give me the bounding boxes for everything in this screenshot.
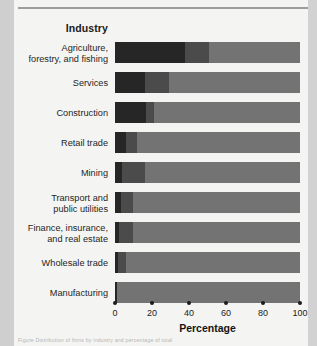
chart-row: Mining xyxy=(0,158,317,188)
bar-segment xyxy=(126,252,300,273)
chart-row: Wholesale trade xyxy=(0,248,317,278)
stacked-bar-chart: Industry Agriculture,forestry, and fishi… xyxy=(0,0,317,346)
bar-segment xyxy=(119,222,134,243)
stacked-bar xyxy=(115,102,300,123)
category-label: Transport andpublic utilities xyxy=(6,193,108,214)
x-tick-label: 60 xyxy=(221,308,231,318)
x-tick-label: 20 xyxy=(147,308,157,318)
x-tick-label: 40 xyxy=(184,308,194,318)
category-label: Mining xyxy=(6,168,108,179)
chart-row: Retail trade xyxy=(0,128,317,158)
bar-segment xyxy=(146,102,153,123)
bar-segment xyxy=(126,132,137,153)
bar-segment xyxy=(115,72,145,93)
category-label: Services xyxy=(6,78,108,89)
chart-row: Construction xyxy=(0,98,317,128)
stacked-bar xyxy=(115,132,300,153)
x-tick-mark xyxy=(150,301,154,305)
category-label: Manufacturing xyxy=(6,288,108,299)
x-tick-mark xyxy=(113,301,117,305)
stacked-bar xyxy=(115,282,300,303)
x-axis-title: Percentage xyxy=(115,322,300,334)
category-label: Agriculture,forestry, and fishing xyxy=(6,43,108,64)
bar-segment xyxy=(115,132,126,153)
x-tick-label: 80 xyxy=(258,308,268,318)
category-label: Finance, insurance,and real estate xyxy=(6,223,108,244)
bar-segment xyxy=(122,162,144,183)
bar-segment xyxy=(209,42,300,63)
category-label: Retail trade xyxy=(6,138,108,149)
bar-segment xyxy=(115,42,185,63)
bar-segment xyxy=(133,222,300,243)
chart-row: Transport andpublic utilities xyxy=(0,188,317,218)
x-tick-mark xyxy=(187,301,191,305)
chart-row: Agriculture,forestry, and fishing xyxy=(0,38,317,68)
stacked-bar xyxy=(115,162,300,183)
bar-segment xyxy=(115,102,146,123)
category-label: Construction xyxy=(6,108,108,119)
x-tick-mark xyxy=(224,301,228,305)
bar-segment xyxy=(185,42,209,63)
x-tick-mark xyxy=(298,301,302,305)
stacked-bar xyxy=(115,222,300,243)
stacked-bar xyxy=(115,192,300,213)
x-tick-mark xyxy=(261,301,265,305)
chart-rows: Agriculture,forestry, and fishingService… xyxy=(0,38,317,308)
category-label: Wholesale trade xyxy=(6,258,108,269)
bar-segment xyxy=(137,132,300,153)
bar-segment xyxy=(154,102,300,123)
chart-row: Services xyxy=(0,68,317,98)
bar-segment xyxy=(115,162,122,183)
bar-segment xyxy=(121,192,134,213)
bar-segment xyxy=(145,162,300,183)
x-tick-label: 100 xyxy=(292,308,307,318)
bar-segment xyxy=(118,252,126,273)
stacked-bar xyxy=(115,42,300,63)
bar-segment xyxy=(133,192,300,213)
industry-column-header: Industry xyxy=(14,22,108,34)
x-tick-label: 0 xyxy=(112,308,117,318)
chart-row: Finance, insurance,and real estate xyxy=(0,218,317,248)
page-caption: Figure Distribution of firms by industry… xyxy=(18,337,303,343)
bar-segment xyxy=(117,282,300,303)
bar-segment xyxy=(145,72,169,93)
bar-segment xyxy=(169,72,300,93)
stacked-bar xyxy=(115,252,300,273)
stacked-bar xyxy=(115,72,300,93)
